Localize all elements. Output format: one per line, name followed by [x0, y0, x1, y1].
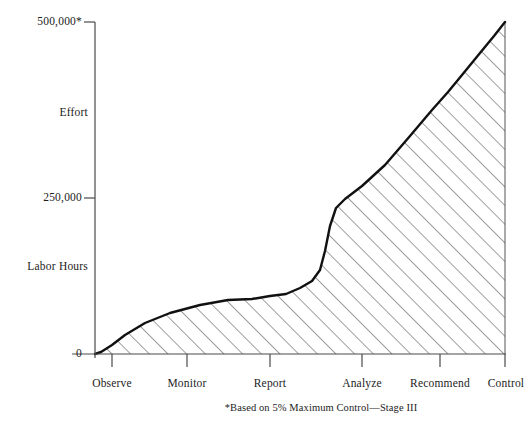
x-axis-label-control: Control [456, 377, 532, 389]
chart-figure: 500,000* 250,000 0 Effort Labor Hours Ob… [0, 0, 532, 424]
y-axis-label-500000: 500,000* [0, 15, 82, 27]
y-axis-title-labor-hours: Labor Hours [0, 260, 88, 272]
chart-plot-area [0, 0, 532, 424]
chart-footnote: *Based on 5% Maximum Control—Stage III [116, 402, 526, 413]
x-axis-label-report: Report [220, 377, 320, 389]
y-axis-label-250000: 250,000 [0, 191, 82, 203]
y-axis-label-zero: 0 [46, 347, 82, 359]
area-fill-hatch [90, 15, 515, 360]
y-axis-title-effort: Effort [0, 106, 88, 118]
